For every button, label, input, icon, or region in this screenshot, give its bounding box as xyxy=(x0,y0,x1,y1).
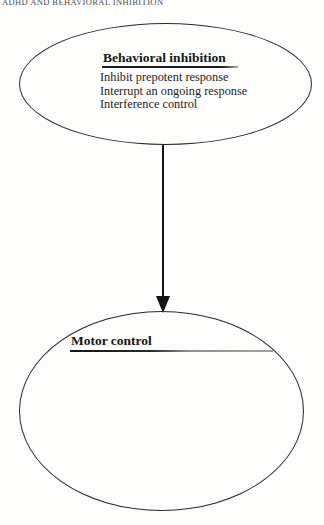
node-behavioral-inhibition-items: Inhibit prepotent response Interrupt an … xyxy=(100,71,247,112)
list-item: Inhibit prepotent response xyxy=(100,71,247,85)
node-behavioral-inhibition-underline xyxy=(102,66,238,68)
node-behavioral-inhibition-title: Behavioral inhibition xyxy=(103,51,226,65)
figure-page: ADHD AND BEHAVIORAL INHIBITION Behaviora… xyxy=(0,0,324,525)
running-head-text: ADHD AND BEHAVIORAL INHIBITION xyxy=(2,0,202,7)
list-item: Interference control xyxy=(100,98,247,112)
node-motor-control-title: Motor control xyxy=(71,334,152,348)
running-head-clipped: ADHD AND BEHAVIORAL INHIBITION xyxy=(2,0,202,7)
list-item: Interrupt an ongoing response xyxy=(100,85,247,99)
node-motor-control-underline xyxy=(70,350,273,352)
node-motor-control xyxy=(19,311,304,511)
connector-arrow-line xyxy=(162,145,164,298)
